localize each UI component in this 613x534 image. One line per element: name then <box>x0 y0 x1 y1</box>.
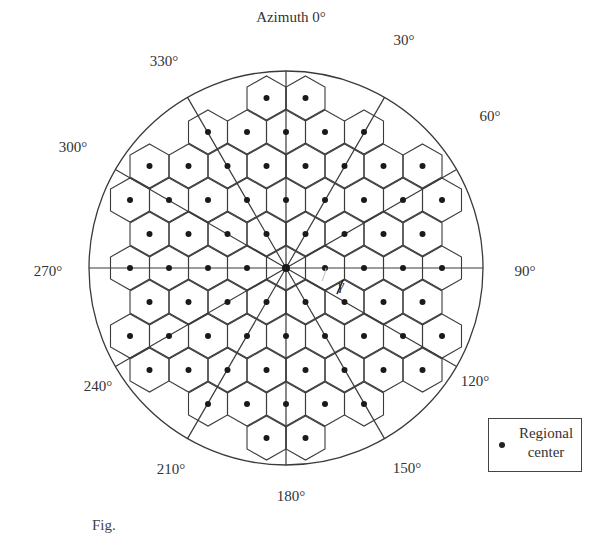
regional-center-dot <box>420 163 426 169</box>
regional-center-dot <box>264 95 270 101</box>
regional-center-dot <box>439 265 445 271</box>
regional-center-dot <box>439 197 445 203</box>
azimuth-label: 90° <box>515 263 536 280</box>
legend-label: Regional center <box>513 424 579 462</box>
azimuth-label: 300° <box>59 139 88 156</box>
regional-center-dot <box>244 401 250 407</box>
regional-center-dot <box>186 231 192 237</box>
regional-center-dot <box>205 333 211 339</box>
regional-center-dot <box>322 401 328 407</box>
regional-center-dot <box>264 367 270 373</box>
regional-center-dot <box>322 197 328 203</box>
regional-center-dot <box>342 163 348 169</box>
regional-center-dot <box>361 197 367 203</box>
regional-center-dot <box>283 197 289 203</box>
regional-center-dot <box>361 401 367 407</box>
figure-caption: Fig. <box>92 517 116 534</box>
azimuth-title-label: Azimuth 0° <box>256 9 326 26</box>
regional-center-dot <box>381 367 387 373</box>
regional-center-dot <box>225 231 231 237</box>
regional-center-dot <box>147 163 153 169</box>
azimuth-spoke <box>188 268 287 439</box>
regional-center-dot <box>342 367 348 373</box>
regional-center-dot <box>303 231 309 237</box>
regional-center-dot <box>147 299 153 305</box>
azimuth-label: 330° <box>150 53 179 70</box>
regional-center-dot <box>127 197 133 203</box>
regional-center-dot <box>166 333 172 339</box>
azimuth-label: 270° <box>34 263 63 280</box>
regional-center-dot <box>342 299 348 305</box>
azimuth-label: 120° <box>461 373 490 390</box>
regional-center-dot <box>361 265 367 271</box>
regional-center-dot <box>361 129 367 135</box>
azimuth-label: 240° <box>84 378 113 395</box>
regional-center-dot <box>361 333 367 339</box>
azimuth-spoke <box>188 97 287 268</box>
regional-center-dot <box>420 367 426 373</box>
azimuth-spoke <box>286 268 385 439</box>
regional-center-dot <box>147 367 153 373</box>
regional-center-dot <box>400 197 406 203</box>
regional-center-dot <box>225 367 231 373</box>
azimuth-label: 30° <box>394 32 415 49</box>
regional-center-dot <box>244 333 250 339</box>
regional-center-dot <box>205 197 211 203</box>
regional-center-dot <box>205 265 211 271</box>
regional-center-dot <box>244 197 250 203</box>
regional-center-dot <box>381 163 387 169</box>
legend-label-line2: center <box>528 444 565 460</box>
regional-center-dot <box>186 299 192 305</box>
regional-center-dot <box>400 265 406 271</box>
regional-center-dot <box>420 231 426 237</box>
regional-center-dot <box>420 299 426 305</box>
regional-center-dot <box>166 265 172 271</box>
regional-center-dot <box>225 163 231 169</box>
regional-center-dot <box>166 197 172 203</box>
azimuth-spoke <box>286 97 385 268</box>
regional-center-dot <box>439 333 445 339</box>
regional-center-dot <box>127 333 133 339</box>
regional-center-dot <box>381 231 387 237</box>
regional-center-dot <box>283 401 289 407</box>
regional-center-dot <box>303 367 309 373</box>
regional-center-dot <box>205 129 211 135</box>
regional-center-dot <box>225 299 231 305</box>
legend-label-line1: Regional <box>519 425 573 441</box>
regional-center-dot <box>303 435 309 441</box>
regional-center-dot <box>283 129 289 135</box>
regional-center-dot <box>264 231 270 237</box>
legend: Regional center <box>488 418 582 472</box>
regional-center-dot <box>303 299 309 305</box>
regional-center-dot <box>205 401 211 407</box>
regional-center-dot <box>303 95 309 101</box>
regional-center-dot <box>264 163 270 169</box>
regional-center-dot <box>400 333 406 339</box>
regional-center-dot <box>186 163 192 169</box>
regional-center-dot <box>342 231 348 237</box>
regional-center-dot <box>127 265 133 271</box>
regional-center-dot <box>147 231 153 237</box>
regional-center-dot <box>244 129 250 135</box>
regional-center-dot <box>264 435 270 441</box>
regional-center-dot <box>186 367 192 373</box>
azimuth-label: 210° <box>157 461 186 478</box>
regional-center-dot <box>381 299 387 305</box>
regional-center-dot <box>283 333 289 339</box>
azimuth-label: 180° <box>277 488 306 505</box>
origin-dot <box>282 264 290 272</box>
regional-center-dot-icon <box>499 442 505 448</box>
regional-center-dot <box>303 163 309 169</box>
regional-center-dot <box>322 129 328 135</box>
azimuth-label: 60° <box>480 108 501 125</box>
regional-center-dot <box>322 333 328 339</box>
azimuth-label: 150° <box>393 460 422 477</box>
regional-center-dot <box>322 265 328 271</box>
regional-center-dot <box>244 265 250 271</box>
regional-center-dot <box>264 299 270 305</box>
